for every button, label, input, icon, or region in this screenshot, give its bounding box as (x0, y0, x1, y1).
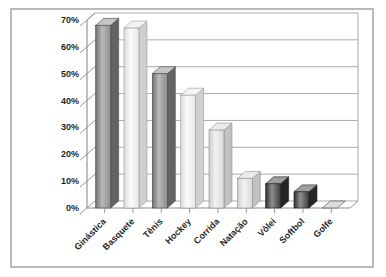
y-axis-label: 20% (61, 149, 79, 159)
chart-page: 0%10%20%30%40%50%60%70%GinásticaBasquete… (0, 0, 386, 277)
favorite-sports-bar-chart: 0%10%20%30%40%50%60%70%GinásticaBasquete… (0, 0, 386, 277)
bar-3 (181, 88, 204, 208)
bar-front-face (181, 95, 196, 208)
bar-front-face (124, 28, 139, 208)
bar-5 (237, 171, 260, 208)
bar-side-face (111, 18, 119, 208)
bar-2 (152, 67, 175, 208)
y-axis-label: 60% (61, 42, 79, 52)
bar-6 (266, 177, 289, 208)
y-axis-label: 40% (61, 96, 79, 106)
bar-side-face (224, 123, 232, 208)
bar-4 (209, 123, 232, 208)
bar-front-face (266, 184, 281, 208)
bar-front-face (96, 25, 111, 208)
bar-side-face (196, 88, 204, 208)
bar-0 (96, 18, 119, 208)
bar-1 (124, 21, 147, 208)
bar-front-face (294, 192, 309, 208)
y-axis-label: 50% (61, 69, 79, 79)
y-axis-label: 70% (61, 15, 79, 25)
bar-front-face (152, 74, 167, 208)
y-axis-label: 10% (61, 176, 79, 186)
bar-side-face (139, 21, 147, 208)
y-axis-label: 0% (66, 203, 79, 213)
bar-front-face (209, 130, 224, 208)
y-axis-label: 30% (61, 122, 79, 132)
bar-side-face (167, 67, 175, 208)
bar-front-face (237, 178, 252, 208)
